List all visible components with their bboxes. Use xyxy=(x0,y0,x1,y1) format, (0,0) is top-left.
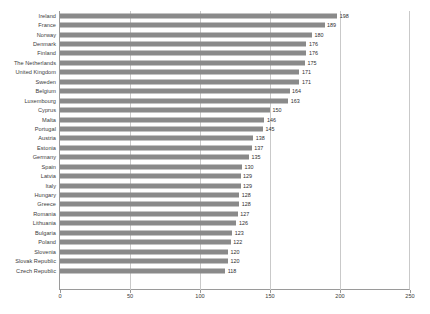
bar-value-label: 135 xyxy=(252,154,261,160)
bar xyxy=(60,136,253,141)
bar-row: Norway180 xyxy=(0,30,430,39)
bar-value-label: 150 xyxy=(273,107,282,113)
bar-row: Ireland198 xyxy=(0,11,430,20)
category-label: Finland xyxy=(37,50,56,56)
bar-value-label: 176 xyxy=(309,50,318,56)
bar-rows: Ireland198France189Norway180Denmark176Fi… xyxy=(0,11,430,290)
bar-value-label: 138 xyxy=(256,135,265,141)
bar-value-label: 146 xyxy=(267,117,276,123)
bar xyxy=(60,211,238,216)
bar-row: Estonia137 xyxy=(0,143,430,152)
bar-value-label: 122 xyxy=(233,239,242,245)
bar xyxy=(60,155,249,160)
bar xyxy=(60,98,288,103)
bar-value-label: 180 xyxy=(315,32,324,38)
bar xyxy=(60,13,337,18)
bar-row: Lithuania126 xyxy=(0,219,430,228)
bar xyxy=(60,70,299,75)
x-tick-label: 100 xyxy=(195,292,204,300)
bar-row: Portugal145 xyxy=(0,124,430,133)
bar xyxy=(60,268,225,273)
category-label: France xyxy=(38,22,56,28)
category-label: Portugal xyxy=(35,126,56,132)
category-label: Latvia xyxy=(41,173,56,179)
bar-row: Italy129 xyxy=(0,181,430,190)
bar xyxy=(60,240,231,245)
bar xyxy=(60,108,270,113)
x-tick-label: 250 xyxy=(405,292,414,300)
bar xyxy=(60,42,306,47)
bar-value-label: 163 xyxy=(291,98,300,104)
bar xyxy=(60,145,252,150)
bar-value-label: 128 xyxy=(242,201,251,207)
category-label: Spain xyxy=(41,164,56,170)
x-tick-label: 150 xyxy=(265,292,274,300)
bar-value-label: 118 xyxy=(228,268,237,274)
bar-row: Poland122 xyxy=(0,238,430,247)
category-label: Bulgaria xyxy=(35,230,56,236)
x-axis-tick-labels: 050100150200250 xyxy=(0,292,430,306)
bar-value-label: 126 xyxy=(239,220,248,226)
bar-row: Latvia129 xyxy=(0,171,430,180)
category-label: Poland xyxy=(38,239,56,245)
bar xyxy=(60,174,241,179)
category-label: Denmark xyxy=(33,41,56,47)
category-label: Estonia xyxy=(37,145,56,151)
bar xyxy=(60,89,290,94)
bar-value-label: 176 xyxy=(309,41,318,47)
bar-row: Austria138 xyxy=(0,134,430,143)
bar-value-label: 120 xyxy=(231,258,240,264)
bar-value-label: 164 xyxy=(292,88,301,94)
bar-row: Bulgaria123 xyxy=(0,228,430,237)
bar-row: Romania127 xyxy=(0,209,430,218)
category-label: The Netherlands xyxy=(14,60,56,66)
bar-value-label: 189 xyxy=(327,22,336,28)
bar-value-label: 123 xyxy=(235,230,244,236)
bar-value-label: 127 xyxy=(240,211,249,217)
bar xyxy=(60,23,325,28)
bar-value-label: 130 xyxy=(245,164,254,170)
category-label: Lithuania xyxy=(33,220,56,226)
category-label: Sweden xyxy=(35,79,56,85)
category-label: Germany xyxy=(33,154,56,160)
category-label: Malta xyxy=(42,117,56,123)
bar xyxy=(60,183,241,188)
category-label: Austria xyxy=(38,135,56,141)
bar-row: Slovak Republic120 xyxy=(0,256,430,265)
bar xyxy=(60,117,264,122)
category-label: Norway xyxy=(37,32,56,38)
bar-value-label: 129 xyxy=(243,173,252,179)
bar-row: Belgium164 xyxy=(0,87,430,96)
bar-row: Cyprus150 xyxy=(0,105,430,114)
bar-row: Finland176 xyxy=(0,49,430,58)
bar-row: Spain130 xyxy=(0,162,430,171)
bar-row: Luxembourg163 xyxy=(0,96,430,105)
bar-chart: Ireland198France189Norway180Denmark176Fi… xyxy=(0,0,430,314)
bar-value-label: 175 xyxy=(308,60,317,66)
bar xyxy=(60,32,312,37)
x-tick-label: 0 xyxy=(58,292,61,300)
category-label: Italy xyxy=(45,183,56,189)
category-label: Luxembourg xyxy=(24,98,56,104)
bar-row: Malta146 xyxy=(0,115,430,124)
bar-row: Germany135 xyxy=(0,153,430,162)
bar-row: Slovenia120 xyxy=(0,247,430,256)
bar-row: Denmark176 xyxy=(0,39,430,48)
bar xyxy=(60,202,239,207)
bar-value-label: 137 xyxy=(254,145,263,151)
x-tick-label: 50 xyxy=(127,292,133,300)
bar-row: United Kingdom171 xyxy=(0,68,430,77)
bar-value-label: 171 xyxy=(302,69,311,75)
bar xyxy=(60,259,228,264)
category-label: Czech Republic xyxy=(16,268,56,274)
category-label: Belgium xyxy=(35,88,56,94)
category-label: Slovenia xyxy=(34,249,56,255)
x-tick-label: 200 xyxy=(335,292,344,300)
category-label: Slovak Republic xyxy=(15,258,56,264)
bar-row: Sweden171 xyxy=(0,77,430,86)
category-label: Ireland xyxy=(39,13,56,19)
bar xyxy=(60,79,299,84)
category-label: Romania xyxy=(33,211,56,217)
bar xyxy=(60,230,232,235)
category-label: Cyprus xyxy=(38,107,56,113)
